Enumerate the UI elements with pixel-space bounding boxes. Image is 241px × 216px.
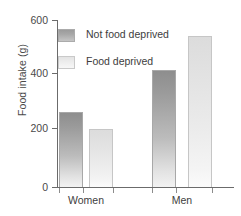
y-tick-mark-200 [52, 128, 58, 129]
y-tick-label-0: 0 [8, 181, 48, 193]
y-axis-line [57, 20, 58, 187]
bar-women-not-food-deprived [59, 112, 83, 188]
y-tick-label-400: 400 [8, 67, 48, 79]
bottom-crop-artifact [52, 209, 172, 216]
x-tick-mark-6 [212, 188, 213, 193]
x-tick-mark-3 [113, 188, 114, 193]
x-tick-mark-4 [152, 188, 153, 193]
bar-women-food-deprived [89, 129, 113, 188]
legend-label-food-deprived: Food deprived [86, 55, 153, 67]
y-tick-label-600: 600 [8, 14, 48, 26]
legend-swatch-icon-food-deprived [58, 56, 75, 69]
x-tick-mark-2 [83, 188, 84, 193]
x-tick-mark-5 [176, 188, 177, 193]
x-tick-mark-1 [59, 188, 60, 193]
bar-men-food-deprived [188, 36, 212, 188]
y-tick-mark-600 [52, 20, 58, 21]
legend-swatch-icon-not-food-deprived [58, 29, 75, 42]
bar-chart-figure: Food intake (g) 600 400 200 0 Women Men … [0, 0, 241, 216]
y-tick-mark-400 [52, 73, 58, 74]
y-tick-label-200: 200 [8, 122, 48, 134]
x-category-label-women: Women [46, 194, 126, 206]
legend-label-not-food-deprived: Not food deprived [86, 28, 169, 40]
x-category-label-men: Men [142, 194, 222, 206]
bar-men-not-food-deprived [152, 70, 176, 188]
